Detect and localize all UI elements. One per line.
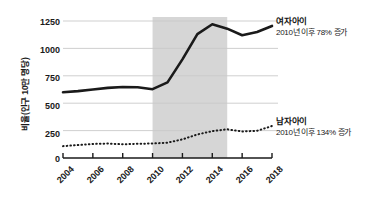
annotation-boys-subtitle: 2010년 이후 134% 증가 — [276, 127, 351, 138]
annotation-girls: 여자아이 2010년 이후 78% 증가 — [276, 16, 347, 38]
annotation-boys: 남자아이 2010년 이후 134% 증가 — [276, 116, 351, 138]
chart-figure: 비율(인구 10만 명당) 1250 1000 750 500 250 0 20… — [0, 0, 378, 207]
shaded-band — [153, 17, 228, 158]
annotation-boys-title: 남자아이 — [276, 116, 351, 127]
annotation-girls-subtitle: 2010년 이후 78% 증가 — [276, 27, 347, 38]
annotation-girls-title: 여자아이 — [276, 16, 347, 27]
